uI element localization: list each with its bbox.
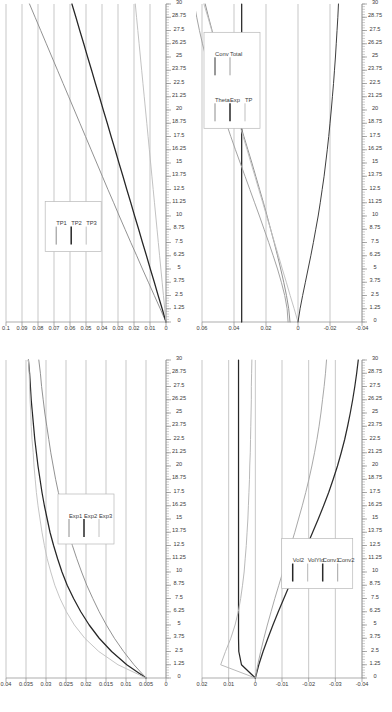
plot-area-top-left: 01.252.53.7556.257.58.751011.2512.513.75…: [0, 0, 196, 356]
x-tick-label: 6.25: [370, 607, 381, 613]
x-tick-label: 0: [373, 673, 376, 679]
y-tick-label: -0.04: [356, 681, 369, 687]
y-tick-label: 0: [254, 681, 257, 687]
chart-grid: 01.252.53.7556.257.58.751011.2512.513.75…: [0, 0, 392, 712]
chart-panel-top-right: 01.252.53.7556.257.58.751011.2512.513.75…: [196, 0, 392, 356]
x-tick-label: 25: [176, 52, 182, 58]
series-line-conv2: [255, 360, 326, 678]
x-tick-label: 5: [373, 264, 376, 270]
legend-label-exp2: Exp2: [84, 513, 97, 519]
x-tick-label: 30: [176, 356, 182, 361]
x-tick-label: 11.25: [368, 554, 382, 560]
x-tick-label: 22.5: [370, 79, 381, 85]
plot-area-bottom-right: 01.252.53.7556.257.58.751011.2512.513.75…: [196, 356, 392, 712]
y-tick-label: 0.02: [129, 325, 140, 331]
y-tick-label: 0.01: [121, 681, 132, 687]
x-tick-label: 3.75: [174, 277, 185, 283]
x-tick-label: 20: [372, 461, 378, 467]
y-tick-label: 0.02: [81, 681, 92, 687]
x-tick-label: 1.25: [370, 660, 381, 666]
y-tick-label: 0.08: [33, 325, 44, 331]
legend-label-total: Total: [230, 51, 242, 57]
x-tick-label: 12.5: [370, 541, 381, 547]
y-tick-label: -0.02: [324, 325, 337, 331]
x-tick-label: 17.5: [174, 132, 185, 138]
x-tick-label: 7.5: [371, 594, 379, 600]
legend-label-conv2: Conv2: [338, 557, 355, 563]
legend-label-theta: Theta: [215, 97, 231, 103]
y-tick-label: 0.04: [97, 325, 108, 331]
x-tick-label: 18.75: [368, 118, 382, 124]
x-tick-label: 7.5: [371, 238, 379, 244]
x-tick-label: 17.5: [174, 488, 185, 494]
x-tick-label: 27.5: [174, 382, 185, 388]
x-tick-label: 23.75: [172, 65, 186, 71]
x-tick-label: 7.5: [175, 238, 183, 244]
legend-box: [45, 202, 101, 252]
x-tick-label: 12.5: [174, 541, 185, 547]
legend-label-tp1: TP1: [56, 220, 67, 226]
legend-label-exp3: Exp3: [99, 513, 112, 519]
legend-label-tp3: TP3: [86, 220, 97, 226]
y-tick-label: 0.035: [19, 681, 33, 687]
x-tick-label: 7.5: [175, 594, 183, 600]
y-tick-label: -0.03: [329, 681, 342, 687]
series-line-vol2: [239, 360, 256, 678]
y-tick-label: 0.1: [2, 325, 10, 331]
x-tick-label: 8.75: [174, 580, 185, 586]
y-tick-label: -0.04: [356, 325, 369, 331]
y-tick-label: 0.01: [145, 325, 156, 331]
x-tick-label: 20: [176, 461, 182, 467]
x-tick-label: 23.75: [368, 421, 382, 427]
x-tick-label: 26.25: [172, 39, 186, 45]
chart-svg-panel-top-left: 01.252.53.7556.257.58.751011.2512.513.75…: [0, 0, 196, 356]
legend-panel-bottom-left: Exp1Exp2Exp3: [58, 494, 114, 544]
y-tick-label: 0.06: [65, 325, 76, 331]
x-tick-label: 23.75: [368, 65, 382, 71]
legend-label-exp: Exp: [230, 97, 240, 103]
legend-label-tp: TP: [245, 97, 253, 103]
chart-panel-bottom-right: 01.252.53.7556.257.58.751011.2512.513.75…: [196, 356, 392, 712]
x-tick-label: 2.5: [175, 291, 183, 297]
x-tick-label: 16.25: [368, 145, 382, 151]
x-tick-label: 18.75: [172, 474, 186, 480]
legend-label-volyld: VolYld: [308, 557, 324, 563]
series-line-conv1: [255, 360, 358, 678]
x-tick-label: 11.25: [172, 198, 186, 204]
x-tick-label: 12.5: [174, 185, 185, 191]
x-tick-label: 12.5: [370, 185, 381, 191]
x-tick-label: 30: [372, 0, 378, 5]
x-tick-label: 26.25: [368, 395, 382, 401]
legend-panel-top-left: TP1TP2TP3: [45, 202, 101, 252]
y-tick-label: 0: [164, 325, 167, 331]
legend-panel-top-right: ThetaExpTPConvTotal: [204, 32, 260, 128]
x-tick-label: 15: [176, 158, 182, 164]
x-tick-label: 21.25: [368, 92, 382, 98]
y-tick-label: 0.025: [59, 681, 73, 687]
x-tick-label: 13.75: [172, 171, 186, 177]
x-tick-label: 25: [176, 408, 182, 414]
x-tick-label: 3.75: [370, 277, 381, 283]
x-tick-label: 6.25: [370, 251, 381, 257]
y-tick-label: 0.09: [17, 325, 28, 331]
x-tick-label: 26.25: [368, 39, 382, 45]
y-tick-label: 0: [164, 681, 167, 687]
x-tick-label: 28.75: [368, 368, 382, 374]
x-tick-label: 2.5: [371, 291, 379, 297]
series-line-tp1: [30, 4, 166, 322]
x-tick-label: 1.25: [174, 660, 185, 666]
x-tick-label: 30: [372, 356, 378, 361]
x-tick-label: 10: [372, 567, 378, 573]
x-tick-label: 22.5: [174, 79, 185, 85]
x-tick-label: 3.75: [370, 633, 381, 639]
x-tick-label: 28.75: [172, 368, 186, 374]
y-tick-label: 0.07: [49, 325, 60, 331]
x-tick-label: 22.5: [370, 435, 381, 441]
x-tick-label: 20: [372, 105, 378, 111]
x-tick-label: 17.5: [370, 132, 381, 138]
y-tick-label: 0.02: [261, 325, 272, 331]
x-tick-label: 6.25: [174, 607, 185, 613]
x-tick-label: 10: [176, 567, 182, 573]
x-tick-label: 5: [177, 620, 180, 626]
x-tick-label: 1.25: [370, 304, 381, 310]
